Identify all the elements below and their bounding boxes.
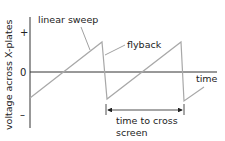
flyback-label: flyback (127, 39, 162, 50)
x-axis-label: time (196, 73, 218, 84)
y-axis-label: voltage across X-plates (3, 19, 14, 130)
linear-sweep-label: linear sweep (38, 14, 98, 25)
y-tick-zero: 0 (20, 67, 26, 78)
y-tick-plus: + (20, 27, 28, 38)
sawtooth-diagram: + 0 – voltage across X-plates linear swe… (0, 0, 225, 141)
linear-sweep-leader (81, 27, 90, 50)
period-label-line1: time to cross (116, 115, 178, 126)
y-tick-minus: – (20, 109, 25, 120)
period-label-line2: screen (116, 127, 148, 138)
flyback-leader (105, 45, 125, 55)
